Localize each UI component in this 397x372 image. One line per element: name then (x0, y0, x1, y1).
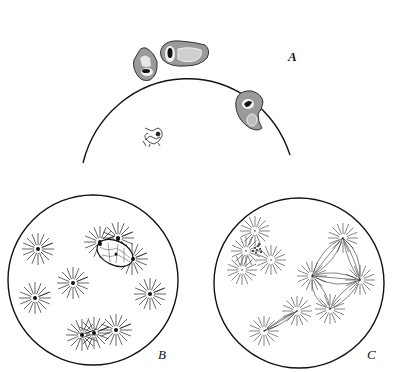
panel-b (8, 195, 178, 365)
figure-illustration: A B C (0, 0, 397, 372)
panel-c (214, 198, 384, 368)
panel-label-b: B (158, 347, 166, 362)
cell-a2 (161, 41, 209, 66)
panel-label-a: A (287, 49, 297, 64)
cell-a3 (236, 91, 263, 130)
nucleus-reticulum (93, 234, 138, 272)
cell-a1 (134, 48, 158, 81)
spindles (264, 238, 360, 331)
panel-a (83, 41, 290, 163)
panel-label-c: C (367, 347, 376, 362)
flagellate (143, 128, 162, 147)
